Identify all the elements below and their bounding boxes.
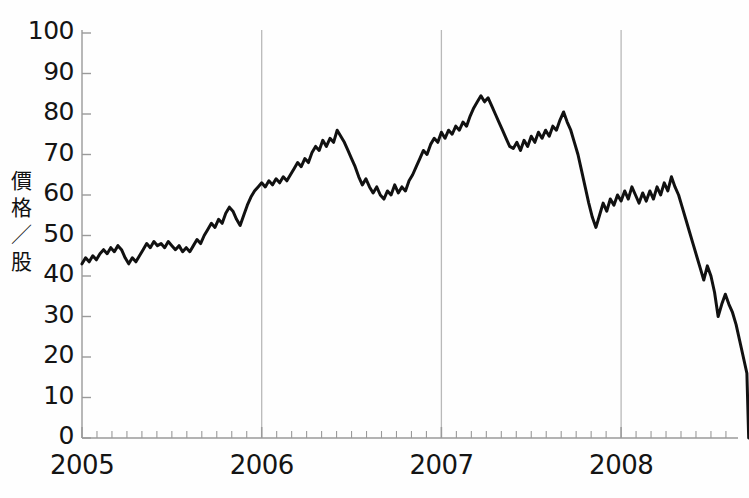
y-tick-label-40: 40 bbox=[0, 259, 74, 288]
y-axis-ticks bbox=[82, 33, 91, 438]
y-tick-label-80: 80 bbox=[0, 97, 74, 126]
y-tick-label-20: 20 bbox=[0, 340, 74, 369]
x-tick-label-2005: 2005 bbox=[50, 450, 114, 480]
price-series-line bbox=[82, 96, 749, 438]
y-tick-label-70: 70 bbox=[0, 138, 74, 167]
y-tick-label-10: 10 bbox=[0, 381, 74, 410]
vertical-gridlines bbox=[262, 30, 621, 438]
x-tick-label-2007: 2007 bbox=[409, 450, 473, 480]
y-tick-label-30: 30 bbox=[0, 300, 74, 329]
y-tick-label-100: 100 bbox=[0, 16, 74, 45]
y-tick-label-0: 0 bbox=[0, 421, 74, 450]
y-tick-label-50: 50 bbox=[0, 219, 74, 248]
y-tick-label-90: 90 bbox=[0, 57, 74, 86]
y-tick-label-60: 60 bbox=[0, 178, 74, 207]
chart-plot-area bbox=[0, 0, 749, 498]
x-tick-label-2008: 2008 bbox=[589, 450, 653, 480]
stock-price-chart: 價 格 ／ 股 0102030405060708090100 200520062… bbox=[0, 0, 749, 498]
x-tick-label-2006: 2006 bbox=[230, 450, 294, 480]
x-axis-minor-ticks bbox=[82, 427, 726, 438]
